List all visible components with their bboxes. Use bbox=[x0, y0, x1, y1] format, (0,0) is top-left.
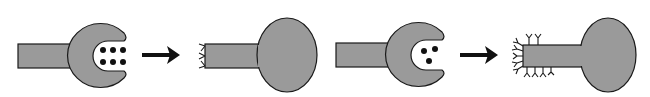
arrow-right-icon bbox=[142, 46, 180, 64]
ligand-dots bbox=[100, 47, 126, 65]
ligand-dots bbox=[421, 46, 438, 64]
cell-few-receptors bbox=[199, 18, 317, 92]
diagram-canvas bbox=[0, 0, 650, 97]
receptor-c-head bbox=[68, 24, 126, 88]
cell-stem bbox=[523, 45, 586, 67]
receptor-3-ligands bbox=[336, 23, 444, 87]
cell-many-receptors bbox=[512, 18, 636, 92]
surface-markers bbox=[199, 44, 205, 68]
receptor-6-ligands bbox=[18, 24, 126, 88]
receptor-c-head bbox=[386, 23, 444, 87]
arrow-right-icon bbox=[460, 46, 498, 64]
